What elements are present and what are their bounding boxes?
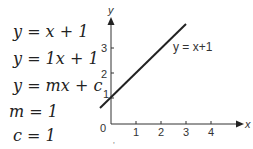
- line-label: y = x+1: [173, 40, 213, 54]
- origin-label: 0: [100, 122, 106, 134]
- x-axis-arrow-icon: [236, 121, 244, 128]
- y-tick-label: 3: [101, 42, 107, 54]
- y-tick-label: 1: [103, 88, 109, 100]
- x-tick-label: 3: [183, 126, 189, 138]
- y-tick-label: 2: [101, 68, 107, 80]
- footer-mark: ʼ: [113, 141, 115, 149]
- x-axis-label: x: [244, 118, 251, 130]
- x-tick-label: 2: [158, 126, 164, 138]
- x-tick-label: 1: [133, 126, 139, 138]
- y-axis-arrow-icon: [108, 17, 115, 25]
- x-tick-label: 4: [208, 126, 214, 138]
- plot-line: [100, 24, 186, 108]
- y-axis-label: y: [107, 4, 115, 16]
- line-graph: y x 0 1 2 3 4 1 2 3 y = x+1 ʼ: [0, 0, 253, 149]
